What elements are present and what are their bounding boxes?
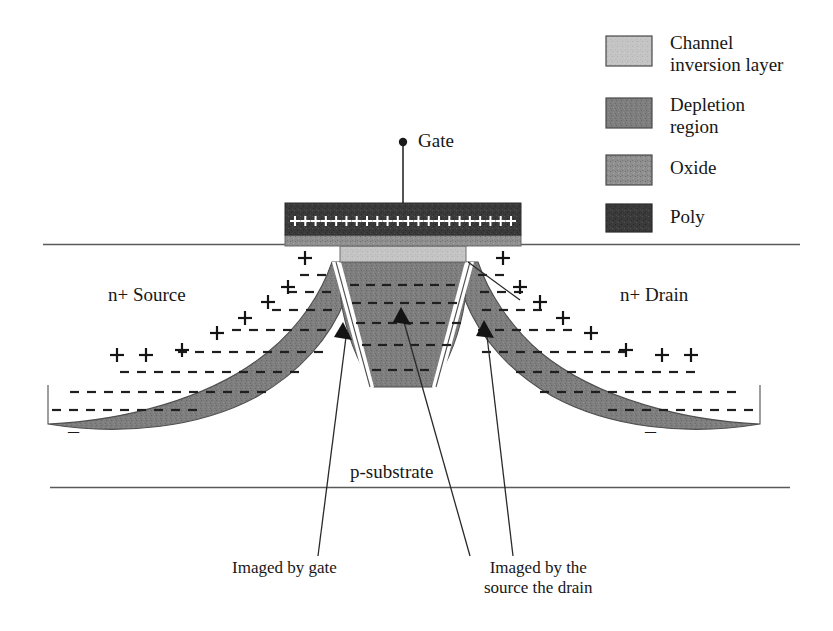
figure-canvas: Channel inversion layer Depletion region… [0, 0, 833, 631]
legend-swatch-poly [606, 204, 652, 232]
annotation-imaged-by-source-drain: Imaged by the source the drain [484, 558, 593, 598]
substrate-label: p-substrate [350, 461, 433, 483]
left-minus-sign: – [68, 418, 79, 444]
drain-label: n+ Drain [620, 284, 688, 306]
gate-terminal-dot [399, 138, 407, 146]
legend-swatch-depletion [606, 98, 652, 128]
legend-swatch-oxide [606, 155, 652, 185]
source-label: n+ Source [108, 284, 186, 306]
right-minus-sign: – [645, 418, 656, 444]
poly-gate-block [285, 203, 521, 235]
leader-line-imaged-by-gate-left [318, 337, 346, 556]
legend-label-oxide: Oxide [670, 157, 716, 179]
gate-oxide-layer [285, 235, 521, 246]
depletion-region-source-wing [48, 262, 345, 429]
legend-label-poly: Poly [670, 206, 705, 228]
leader-line-imaged-by-sd-right [487, 336, 513, 556]
legend-swatch-channel [606, 36, 652, 66]
depletion-region-drain-wing [465, 262, 760, 429]
gate-terminal-label: Gate [418, 130, 454, 152]
annotation-imaged-by-gate: Imaged by gate [232, 558, 337, 578]
legend-label-depletion: Depletion region [670, 94, 745, 138]
legend-label-channel: Channel inversion layer [670, 32, 783, 76]
channel-inversion-layer [340, 246, 466, 262]
depletion-region-gate-controlled [340, 262, 465, 387]
